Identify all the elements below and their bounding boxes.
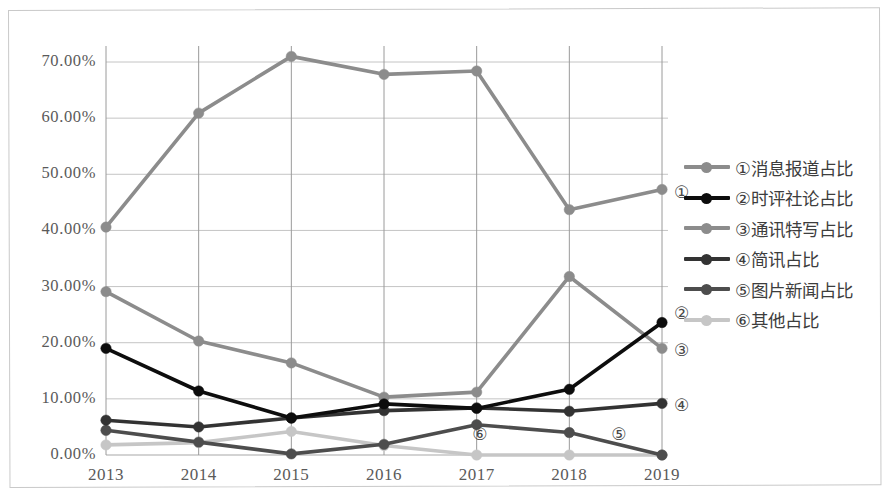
series-marker xyxy=(193,336,203,346)
legend-item[interactable]: ④简讯占比 xyxy=(684,244,890,275)
series-marker xyxy=(657,184,667,194)
legend-item-label: ⑥其他占比 xyxy=(735,307,819,332)
legend-line-marker-icon xyxy=(684,312,730,328)
series-marker xyxy=(657,343,667,353)
legend-item[interactable]: ⑤图片新闻占比 xyxy=(684,274,890,305)
series-annotation-④: ④ xyxy=(674,395,689,415)
series-marker xyxy=(101,343,111,353)
series-marker xyxy=(379,69,389,79)
series-marker xyxy=(193,108,203,118)
series-marker xyxy=(657,398,667,408)
series-marker xyxy=(101,222,111,232)
series-marker xyxy=(193,386,203,396)
legend-item-label: ①消息报道占比 xyxy=(735,155,853,180)
legend-item[interactable]: ②时评社论占比 xyxy=(684,183,890,214)
legend-item-label: ④简讯占比 xyxy=(735,246,819,271)
series-marker xyxy=(471,403,481,413)
series-marker xyxy=(564,271,574,281)
series-marker xyxy=(657,317,667,327)
series-marker xyxy=(379,439,389,449)
legend-line-marker-icon xyxy=(684,190,730,206)
series-marker xyxy=(101,286,111,296)
legend-item[interactable]: ③通讯特写占比 xyxy=(684,213,890,244)
series-marker xyxy=(286,449,296,459)
series-marker xyxy=(471,66,481,76)
legend-item-label: ②时评社论占比 xyxy=(735,185,853,210)
series-marker xyxy=(564,450,574,460)
series-annotation-③: ③ xyxy=(674,340,689,360)
legend-line-marker-icon xyxy=(684,251,730,267)
series-marker xyxy=(564,384,574,394)
legend-line-marker-icon xyxy=(684,281,730,297)
legend-item-label: ⑤图片新闻占比 xyxy=(735,277,853,302)
series-marker xyxy=(101,425,111,435)
legend-line-marker-icon xyxy=(684,220,730,236)
series-marker xyxy=(564,427,574,437)
series-marker xyxy=(286,51,296,61)
series-annotation-⑥: ⑥ xyxy=(472,424,487,444)
series-marker xyxy=(471,387,481,397)
series-marker xyxy=(379,399,389,409)
series-marker xyxy=(193,437,203,447)
line-chart: 0.00%10.00%20.00%30.00%40.00%50.00%60.00… xyxy=(0,0,896,498)
series-marker xyxy=(564,204,574,214)
legend-line-marker-icon xyxy=(684,159,730,175)
series-marker xyxy=(471,450,481,460)
legend-item[interactable]: ⑥其他占比 xyxy=(684,305,890,336)
series-marker xyxy=(564,406,574,416)
series-marker xyxy=(657,450,667,460)
legend-item-label: ③通讯特写占比 xyxy=(735,216,853,241)
series-marker xyxy=(101,440,111,450)
legend-item[interactable]: ①消息报道占比 xyxy=(684,152,890,183)
series-marker xyxy=(101,415,111,425)
series-marker xyxy=(286,426,296,436)
chart-legend: ①消息报道占比②时评社论占比③通讯特写占比④简讯占比⑤图片新闻占比⑥其他占比 xyxy=(684,152,890,335)
series-marker xyxy=(286,413,296,423)
series-marker xyxy=(286,358,296,368)
series-marker xyxy=(193,422,203,432)
series-annotation-⑤: ⑤ xyxy=(611,424,626,444)
